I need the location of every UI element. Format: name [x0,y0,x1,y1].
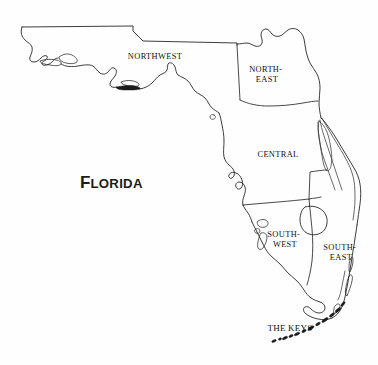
east-central-coast [321,118,361,225]
region-label-southeast: SOUTH- EAST [323,243,358,262]
georgia-border [237,29,298,47]
indian-river-lagoon-outer [322,118,355,220]
region-label-the-keys: THE KEYS [268,323,313,333]
choctawhatchee-bay [59,54,77,64]
region-label-southwest: SOUTH- WEST [267,230,302,249]
south-tip-coast [304,298,333,320]
west-central-coast [219,113,229,165]
panhandle-outline [22,26,237,45]
southwest-coast [243,205,252,222]
cedar-key-inlet [210,115,216,120]
region-label-central: CENTRAL [257,150,298,159]
divider-southwest-southeast [307,199,313,285]
state-title: FLORIDA [80,173,143,192]
mid-panhandle-coast [61,64,116,87]
region-label-northwest: NORTHWEST [128,52,182,61]
map-canvas: NORTHWEST NORTH- EAST CENTRAL SOUTH- WES… [0,0,378,365]
lake-okeechobee [300,206,327,235]
charlotte-harbor-islands [257,220,268,228]
divider-northeast-central [240,100,318,106]
big-bend-coast [140,63,219,113]
divider-central-southeast [309,170,327,199]
region-label-northeast: NORTH- EAST [249,65,285,84]
miami-barrier-islands [338,271,345,300]
tampa-bay [229,165,246,205]
northeast-atlantic-coast [298,30,321,118]
divider-northwest-northeast [237,45,240,100]
florida-regions-map: NORTHWEST NORTH- EAST CENTRAL SOUTH- WES… [0,0,378,365]
